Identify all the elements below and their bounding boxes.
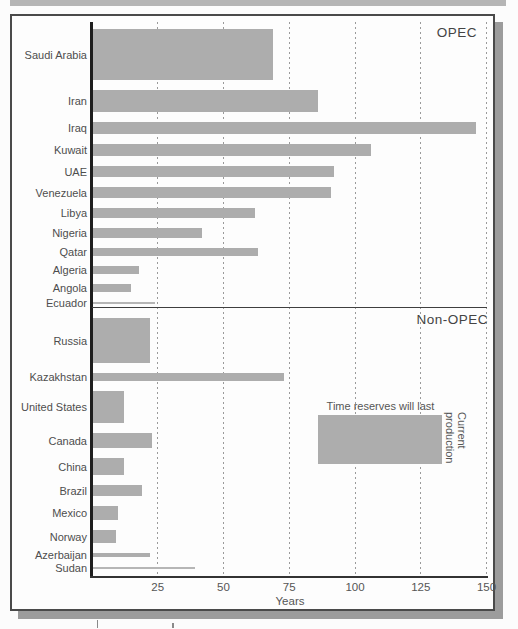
country-label: United States: [0, 401, 87, 413]
reserves-bar: [93, 391, 124, 423]
opec-section-label: OPEC: [377, 25, 477, 40]
country-label: Kuwait: [0, 144, 87, 156]
gridline-150: [486, 22, 487, 577]
x-axis-title: Years: [240, 595, 340, 607]
country-label: Angola: [0, 282, 87, 294]
scan-artifact-tick: [172, 623, 174, 628]
country-label: Brazil: [0, 485, 87, 497]
reserves-bar: [93, 433, 152, 448]
reserves-bar: [93, 166, 334, 177]
reserves-bar: [93, 485, 142, 496]
tick-label-75: 75: [269, 581, 309, 593]
reserves-bar: [93, 530, 116, 543]
country-label: Mexico: [0, 507, 87, 519]
reserves-bar: [93, 458, 124, 475]
chart-page: OPEC Non-OPEC Saudi ArabiaIranIraqKuwait…: [0, 0, 518, 629]
country-label: Qatar: [0, 246, 87, 258]
reserves-bar: [93, 567, 195, 569]
country-label: Azerbaijan: [0, 549, 87, 561]
country-label: Ecuador: [0, 297, 87, 309]
y-axis-line: [90, 22, 93, 578]
legend-length-caption: Time reserves will last: [300, 400, 461, 412]
gridline-125: [420, 22, 421, 577]
country-label: Norway: [0, 531, 87, 543]
reserves-bar: [93, 144, 371, 156]
country-label: Algeria: [0, 264, 87, 276]
country-label: China: [0, 461, 87, 473]
tick-label-25: 25: [138, 581, 178, 593]
country-label: Iraq: [0, 122, 87, 134]
tick-label-100: 100: [335, 581, 375, 593]
country-label: UAE: [0, 166, 87, 178]
country-label: Venezuela: [0, 187, 87, 199]
tick-label-125: 125: [401, 581, 441, 593]
country-label: Saudi Arabia: [0, 49, 87, 61]
tick-label-150: 150: [467, 581, 507, 593]
country-label: Russia: [0, 335, 87, 347]
country-label: Kazakhstan: [0, 371, 87, 383]
country-label: Nigeria: [0, 227, 87, 239]
x-axis-line: [90, 576, 488, 578]
legend-thickness-caption: Current production: [443, 412, 468, 476]
page-edge-artifact: [10, 0, 506, 6]
reserves-bar: [93, 208, 255, 218]
reserves-bar: [93, 187, 331, 198]
country-label: Libya: [0, 207, 87, 219]
reserves-bar: [93, 318, 150, 363]
reserves-bar: [93, 373, 284, 381]
country-label: Canada: [0, 435, 87, 447]
reserves-bar: [93, 228, 202, 238]
gridline-100: [355, 22, 356, 577]
reserves-bar: [93, 266, 139, 274]
scan-artifact-tick: [97, 620, 98, 628]
reserves-bar: [93, 506, 118, 520]
country-label: Sudan: [0, 562, 87, 574]
reserves-bar: [93, 302, 155, 304]
reserves-bar: [93, 553, 150, 557]
country-label: Iran: [0, 95, 87, 107]
reserves-bar: [93, 284, 131, 292]
reserves-bar: [93, 90, 318, 112]
opec-nonopec-divider-line: [92, 307, 487, 308]
legend-sample-bar: [318, 415, 442, 464]
reserves-bar: [93, 29, 273, 80]
reserves-bar: [93, 248, 258, 256]
tick-label-50: 50: [204, 581, 244, 593]
non-opec-section-label: Non-OPEC: [368, 312, 488, 327]
reserves-bar: [93, 122, 476, 134]
